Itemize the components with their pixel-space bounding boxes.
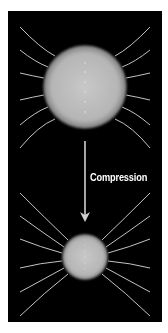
compression-arrow-icon [80, 141, 90, 222]
compression-diagram [0, 0, 168, 333]
compression-label: Compression [90, 171, 147, 183]
sphere-before [43, 45, 127, 129]
